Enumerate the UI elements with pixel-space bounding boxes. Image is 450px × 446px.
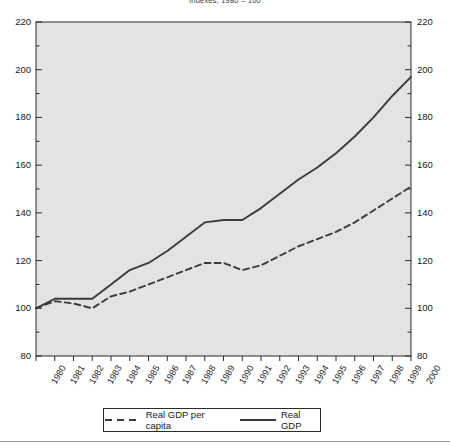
legend-swatch-solid-icon [239,416,276,424]
plot-background [36,22,411,356]
y-axis-label: 180 [3,112,31,122]
y-axis-label: 220 [417,17,445,27]
legend-item-real-gdp-per-capita: Real GDP per capita [104,409,225,431]
y-axis-label: 160 [417,160,445,170]
y-axis-label: 100 [3,303,31,313]
y-axis-label: 120 [417,256,445,266]
y-axis-label: 100 [417,303,445,313]
y-axis-label: 140 [417,208,445,218]
legend-label-real-gdp-per-capita: Real GDP per capita [146,409,226,431]
y-axis-label: 120 [3,256,31,266]
y-axis-label: 80 [3,351,31,361]
legend-swatch-dashed-icon [104,416,141,424]
footer-divider [0,441,450,442]
legend-item-real-gdp: Real GDP [239,409,320,431]
y-axis-label: 220 [3,17,31,27]
y-axis-label: 200 [3,65,31,75]
y-axis-label: 200 [417,65,445,75]
y-axis-label: 140 [3,208,31,218]
y-axis-label: 80 [417,351,445,361]
y-axis-label: 180 [417,112,445,122]
chart-legend: Real GDP per capita Real GDP [103,408,321,432]
y-axis-label: 160 [3,160,31,170]
legend-label-real-gdp: Real GDP [281,409,320,431]
chart-figure: Indexes, 1980 = 100 80100120140160180200… [0,0,450,446]
